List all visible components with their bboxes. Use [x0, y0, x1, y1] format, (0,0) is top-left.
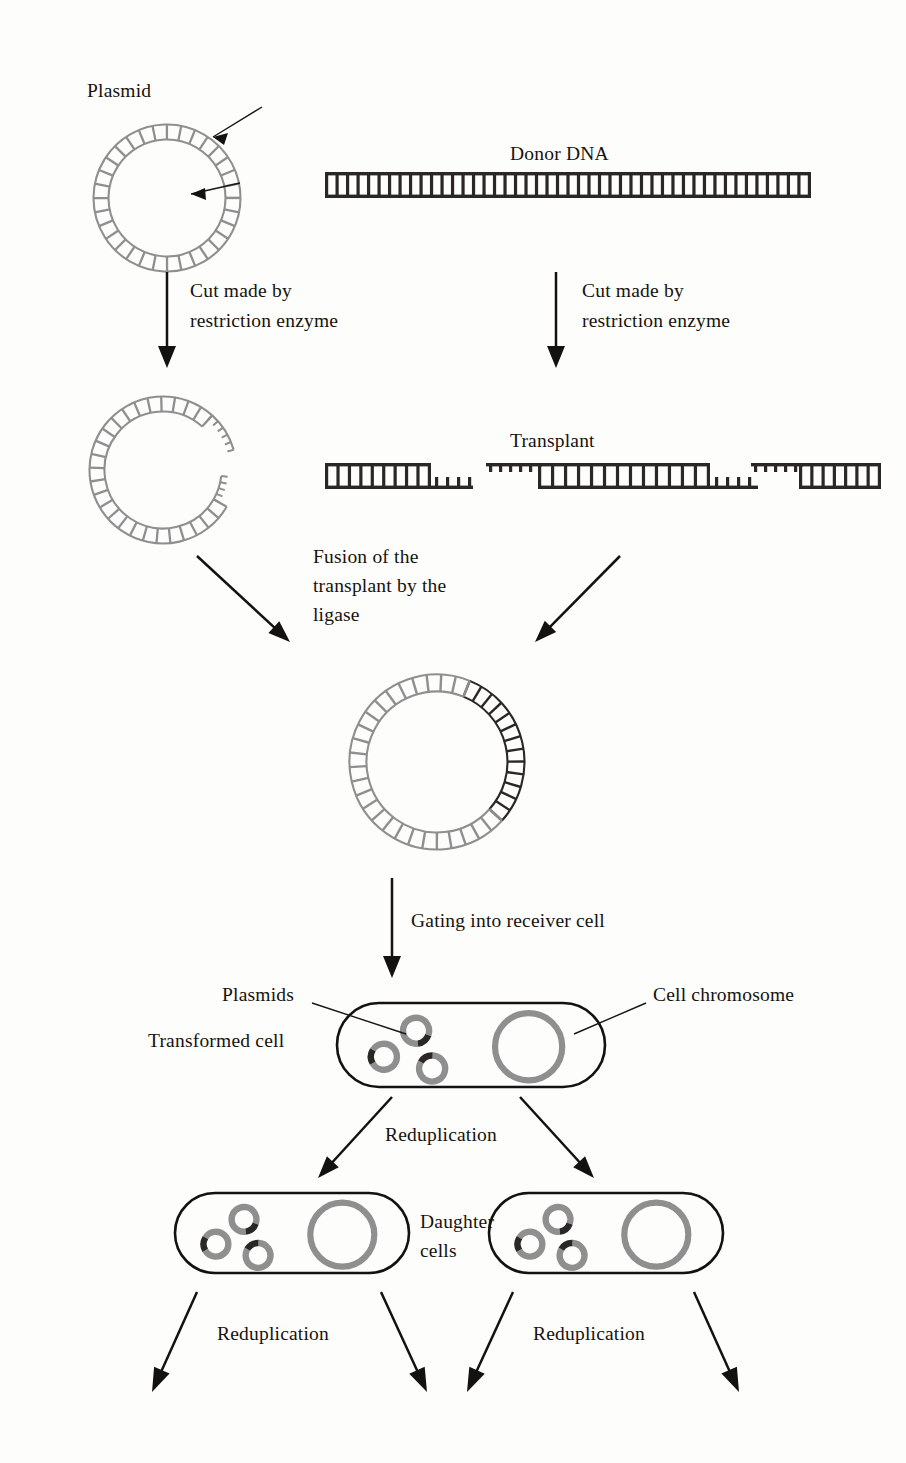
label-reduplication-top: Reduplication: [385, 1124, 497, 1145]
figure-canvas: Plasmid Donor DNA Cut made by restrictio…: [0, 0, 906, 1463]
intact-plasmid-ring: [94, 124, 241, 271]
label-fusion-line1: Fusion of the: [313, 546, 419, 567]
label-plasmids: Plasmids: [222, 984, 294, 1005]
label-fusion-line3: ligase: [313, 604, 360, 625]
label-gating: Gating into receiver cell: [411, 910, 605, 931]
recombinant-dna-diagram: Plasmid Donor DNA Cut made by restrictio…: [0, 0, 906, 1463]
label-donor-dna: Donor DNA: [510, 143, 609, 164]
cut-plasmid-open-ring: [89, 396, 233, 543]
recombinant-plasmid-ring: [350, 675, 525, 850]
label-plasmid: Plasmid: [87, 80, 151, 101]
donor-dna-strand: [325, 172, 811, 198]
label-cut-right-line1: Cut made by: [582, 280, 684, 301]
label-reduplication-left: Reduplication: [217, 1323, 329, 1344]
cut-dna-fragments: [325, 463, 881, 489]
label-daughter-line2: cells: [420, 1240, 457, 1261]
label-transplant: Transplant: [510, 430, 595, 451]
label-cut-left-line1: Cut made by: [190, 280, 292, 301]
label-cut-right-line2: restriction enzyme: [582, 310, 730, 331]
label-cell-chromosome: Cell chromosome: [653, 984, 794, 1005]
label-fusion-line2: transplant by the: [313, 575, 446, 596]
label-daughter-line1: Daughter: [420, 1211, 494, 1232]
label-transformed-cell: Transformed cell: [148, 1030, 285, 1051]
label-reduplication-right: Reduplication: [533, 1323, 645, 1344]
label-cut-left-line2: restriction enzyme: [190, 310, 338, 331]
